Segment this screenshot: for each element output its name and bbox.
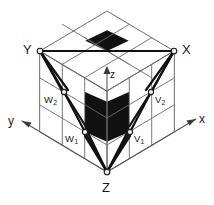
label-vertex-v2-subscript: 2	[162, 99, 166, 106]
label-corner-Y: Y	[23, 43, 32, 56]
label-axis-z: z	[110, 70, 115, 80]
vertex-marker-Y	[37, 48, 43, 54]
label-vertex-w2: W2	[44, 95, 57, 106]
label-vertex-v1: V1	[134, 134, 145, 145]
label-vertex-w1: W1	[65, 134, 78, 145]
label-vertex-w2-base: W	[44, 94, 53, 105]
label-vertex-w1-base: W	[65, 133, 74, 144]
vertex-marker-W1	[82, 129, 87, 134]
vertex-marker-Z	[104, 169, 110, 175]
edge-V1-Zc	[107, 136, 130, 172]
label-vertex-w2-subscript: 2	[53, 99, 57, 106]
axis-x-arrow-icon	[187, 119, 197, 126]
label-axis-x: x	[199, 113, 205, 125]
axis-y-arrow-icon	[22, 121, 32, 128]
vertex-marker-X	[171, 48, 177, 54]
edge-W1-Zc	[85, 136, 107, 172]
vertex-marker-W2	[61, 89, 66, 94]
label-vertex-v1-subscript: 1	[141, 138, 145, 145]
edge-Y-W2c	[40, 51, 68, 90]
cube-drawing-canvas	[0, 0, 214, 205]
label-vertex-v2: V2	[155, 95, 166, 106]
label-corner-X: X	[182, 43, 191, 56]
label-vertex-w1-subscript: 1	[74, 138, 78, 145]
isometric-cube-figure: Y X Z y x z W2 V2 W1 V1	[0, 0, 214, 205]
vertex-marker-V2	[148, 89, 153, 94]
label-axis-y: y	[8, 115, 14, 127]
vertex-marker-V1	[127, 129, 132, 134]
shaded-cell-top-center	[85, 30, 128, 51]
label-corner-Z: Z	[102, 181, 110, 194]
edge-X-V2c	[146, 51, 174, 90]
